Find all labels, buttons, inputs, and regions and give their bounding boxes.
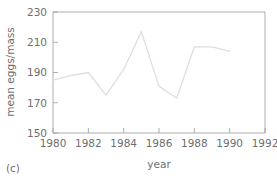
- x-tick-label: 1986: [146, 137, 173, 149]
- y-axis-title: mean eggs/mass: [4, 27, 16, 117]
- y-axis-tick-labels: 150170190210230: [27, 6, 47, 139]
- y-tick-label: 230: [27, 6, 47, 18]
- x-tick-label: 1988: [181, 137, 208, 149]
- line-chart: 150170190210230 198019821984198619881990…: [0, 0, 277, 182]
- x-tick-label: 1982: [75, 137, 102, 149]
- x-tick-label: 1990: [216, 137, 243, 149]
- y-tick-label: 210: [27, 36, 47, 48]
- data-series-line: [53, 32, 230, 99]
- y-tick-label: 190: [27, 66, 47, 78]
- x-axis-tick-labels: 1980198219841986198819901992: [40, 137, 277, 149]
- x-axis-title: year: [147, 158, 171, 170]
- x-tick-label: 1992: [252, 137, 277, 149]
- y-tick-label: 170: [27, 97, 47, 109]
- y-axis-ticks: [53, 12, 58, 133]
- x-tick-label: 1984: [110, 137, 137, 149]
- panel-label: (c): [6, 162, 20, 174]
- x-tick-label: 1980: [40, 137, 67, 149]
- figure-panel-c: 150170190210230 198019821984198619881990…: [0, 0, 277, 182]
- x-axis-ticks: [53, 128, 265, 133]
